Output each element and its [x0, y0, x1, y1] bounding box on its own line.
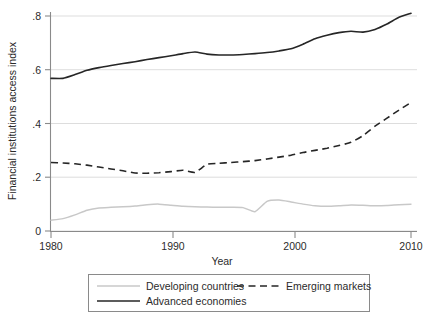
x-tick-marks: [51, 232, 411, 238]
legend-label-advanced-economies: Advanced economies: [146, 295, 246, 307]
gridlines: [51, 16, 417, 231]
x-tick-label-1980: 1980: [39, 240, 63, 252]
series-line-advanced-economies: [51, 13, 411, 78]
legend-label-emerging-markets: Emerging markets: [286, 280, 371, 292]
series-line-emerging-markets: [51, 103, 411, 174]
series-line-developing-countries: [51, 200, 411, 220]
chart-legend: Developing countries Emerging markets Ad…: [89, 275, 372, 312]
y-tick-label-0.2: .2: [32, 171, 41, 183]
legend-label-developing-countries: Developing countries: [146, 280, 244, 292]
line-chart-svg: .8 .6 .4 .2 0 1980 1990 2000 2010 Year F…: [0, 0, 433, 322]
y-axis-title: Financial institutions access index: [6, 41, 18, 200]
y-tick-label-0.4: .4: [32, 118, 41, 130]
x-axis-title: Year: [211, 255, 233, 267]
chart-figure: .8 .6 .4 .2 0 1980 1990 2000 2010 Year F…: [0, 0, 433, 322]
x-tick-label-2010: 2010: [399, 240, 423, 252]
y-tick-label-0.6: .6: [32, 64, 41, 76]
y-tick-label-0: 0: [35, 225, 41, 237]
x-tick-label-1990: 1990: [161, 240, 185, 252]
y-tick-label-0.8: .8: [32, 10, 41, 22]
x-tick-label-2000: 2000: [283, 240, 307, 252]
